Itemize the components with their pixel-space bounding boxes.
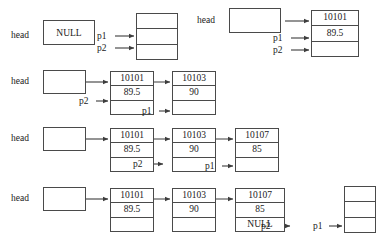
node-cell-next bbox=[312, 42, 358, 56]
node-cell-score: 89.5 bbox=[111, 86, 153, 100]
node-cell-next bbox=[345, 218, 375, 232]
head-box-step1[interactable]: NULL bbox=[43, 20, 95, 45]
node-cell-id: 10101 bbox=[111, 129, 153, 143]
head-value-step1: NULL bbox=[56, 28, 81, 38]
pointer-label-p1-step1: p1 bbox=[97, 31, 107, 41]
node-cell-id: 10103 bbox=[173, 189, 215, 203]
pointer-label-p1-step2: p1 bbox=[273, 33, 283, 43]
node-cell-id: 10107 bbox=[236, 189, 284, 203]
head-label-step5: head bbox=[11, 193, 29, 203]
head-box-step4[interactable] bbox=[43, 127, 86, 151]
node-cell-next bbox=[236, 158, 278, 171]
pointer-label-p1-step5: p1 bbox=[313, 221, 323, 231]
node-new-step5[interactable] bbox=[344, 186, 376, 233]
pointer-label-p1-step4: p1 bbox=[205, 161, 215, 171]
node-1-step5[interactable]: 10101 89.5 bbox=[110, 188, 154, 232]
head-box-step2[interactable] bbox=[229, 8, 281, 33]
node-2-step3[interactable]: 10103 90 bbox=[172, 71, 216, 115]
head-label-step2: head bbox=[197, 15, 215, 25]
node-cell-id: 10103 bbox=[173, 72, 215, 86]
node-cell-score bbox=[137, 29, 177, 44]
node-cell-next bbox=[173, 101, 215, 114]
node-3-step5[interactable]: 10107 85 NULL bbox=[235, 188, 285, 232]
node-1-step2[interactable]: 10101 89.5 bbox=[311, 10, 359, 57]
head-label-step1: head bbox=[11, 30, 29, 40]
pointer-label-p2-step3: p2 bbox=[79, 96, 89, 106]
node-cell-id: 10101 bbox=[312, 11, 358, 26]
node-cell-score: 89.5 bbox=[312, 26, 358, 41]
pointer-label-p2-step1: p2 bbox=[97, 43, 107, 53]
node-cell-score: 89.5 bbox=[111, 143, 153, 157]
node-cell-next bbox=[137, 45, 177, 59]
node-cell-next bbox=[111, 158, 153, 171]
node-cell-id: 10107 bbox=[236, 129, 278, 143]
node-cell-score: 89.5 bbox=[111, 203, 153, 217]
pointer-label-p1-step3: p1 bbox=[142, 106, 152, 116]
node-cell-score bbox=[345, 202, 375, 217]
node-cell-score: 85 bbox=[236, 143, 278, 157]
head-box-step3[interactable] bbox=[43, 70, 86, 94]
pointer-label-p2-step5: p2 bbox=[261, 221, 271, 231]
node-cell-next bbox=[111, 218, 153, 231]
node-cell-id: 10101 bbox=[111, 72, 153, 86]
node-cell-id bbox=[345, 187, 375, 202]
pointer-label-p2-step4: p2 bbox=[133, 159, 143, 169]
node-cell-id bbox=[137, 14, 177, 29]
node-1-step4[interactable]: 10101 89.5 bbox=[110, 128, 154, 172]
node-cell-next bbox=[173, 218, 215, 231]
node-2-step5[interactable]: 10103 90 bbox=[172, 188, 216, 232]
node-cell-score: 90 bbox=[173, 143, 215, 157]
node-3-step4[interactable]: 10107 85 bbox=[235, 128, 279, 172]
linked-list-diagram: head NULL p1 p2 head 10101 89.5 p1 p2 he… bbox=[0, 0, 377, 246]
head-label-step3: head bbox=[11, 76, 29, 86]
node-cell-score: 85 bbox=[236, 203, 284, 217]
node-cell-next: NULL bbox=[236, 218, 284, 231]
node-new-step1[interactable] bbox=[136, 13, 178, 60]
pointer-label-p2-step2: p2 bbox=[273, 45, 283, 55]
node-cell-id: 10101 bbox=[111, 189, 153, 203]
node-cell-score: 90 bbox=[173, 86, 215, 100]
node-cell-id: 10103 bbox=[173, 129, 215, 143]
node-cell-score: 90 bbox=[173, 203, 215, 217]
head-box-step5[interactable] bbox=[43, 187, 86, 211]
head-label-step4: head bbox=[11, 133, 29, 143]
